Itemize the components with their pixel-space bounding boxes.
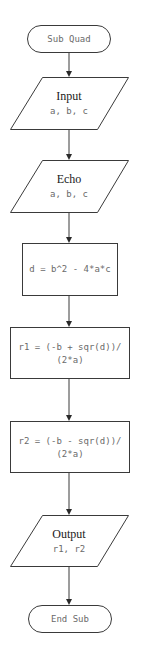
process-r2-line2: (2*a) [56,449,83,459]
parallelogram-shape [11,161,129,213]
parallelogram-shape [11,78,129,130]
end-label: End Sub [51,614,89,624]
arrowhead-icon [66,599,72,605]
output-title: Output [52,527,86,541]
input-vars: a, b, c [50,106,88,116]
process-d[interactable]: d = b^2 - 4*a*c [23,244,118,296]
process-r1-line1: r1 = (-b + sqr(d))/ [19,342,122,352]
output-node[interactable]: Output r1, r2 [11,516,129,567]
parallelogram-shape [11,516,129,567]
arrowhead-icon [66,509,72,515]
process-shape [11,328,130,379]
process-r1[interactable]: r1 = (-b + sqr(d))/ (2*a) [11,328,130,379]
arrowhead-icon [66,321,72,327]
process-r2[interactable]: r2 = (-b - sqr(d))/ (2*a) [11,422,130,473]
process-r1-line2: (2*a) [56,355,83,365]
input-node[interactable]: Input a, b, c [11,78,129,130]
echo-node[interactable]: Echo a, b, c [11,161,129,213]
output-vars: r1, r2 [53,544,86,554]
flowchart-canvas: Sub Quad Input a, b, c Echo a, b, c d = … [0,0,141,646]
echo-title: Echo [57,172,82,186]
echo-vars: a, b, c [50,189,88,199]
end-terminator[interactable]: End Sub [29,606,112,633]
start-label: Sub Quad [47,34,90,44]
arrowhead-icon [66,154,72,160]
input-title: Input [56,89,82,103]
process-shape [11,422,130,473]
start-terminator[interactable]: Sub Quad [28,26,111,53]
arrowhead-icon [66,415,72,421]
process-d-text: d = b^2 - 4*a*c [29,264,110,274]
arrowhead-icon [66,71,72,77]
arrowhead-icon [66,237,72,243]
process-r2-line1: r2 = (-b - sqr(d))/ [19,436,122,446]
